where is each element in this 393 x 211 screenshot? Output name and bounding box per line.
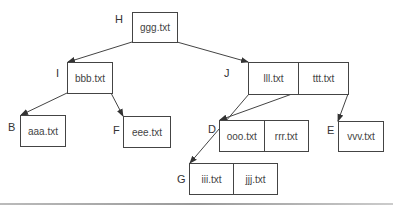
node-d-key-2: rrr.txt	[264, 121, 309, 151]
edge-h-j	[177, 42, 248, 62]
edge-j-e	[338, 94, 348, 121]
node-d: ooo.txt rrr.txt	[219, 120, 309, 152]
node-label-e: E	[327, 124, 334, 136]
node-e-key-1: vvv.txt	[339, 122, 383, 151]
node-label-f: F	[113, 124, 120, 136]
node-d-key-1: ooo.txt	[220, 121, 264, 151]
edge-j-d	[220, 94, 292, 120]
node-e: vvv.txt	[338, 121, 384, 152]
node-h-key-1: ggg.txt	[133, 13, 177, 42]
node-g-key-1: iii.txt	[190, 164, 233, 194]
node-label-j: J	[224, 67, 230, 79]
node-b: aaa.txt	[20, 115, 66, 147]
node-h: ggg.txt	[132, 12, 178, 43]
node-j: lll.txt ttt.txt	[248, 62, 349, 95]
edge-i-f	[111, 93, 123, 116]
node-f-key-1: eee.txt	[124, 117, 170, 147]
node-b-key-1: aaa.txt	[21, 116, 65, 146]
edge-i-b	[21, 93, 67, 115]
edge-h-i	[68, 42, 132, 62]
node-g: iii.txt jjj.txt	[189, 163, 278, 195]
bottom-divider	[0, 203, 393, 205]
node-label-h: H	[115, 13, 123, 25]
node-j-key-2: ttt.txt	[298, 63, 348, 94]
node-g-key-2: jjj.txt	[233, 164, 277, 194]
node-label-g: G	[177, 173, 186, 185]
node-label-d: D	[208, 123, 216, 135]
node-i: bbb.txt	[67, 62, 113, 94]
node-label-b: B	[8, 121, 15, 133]
node-label-i: I	[56, 67, 59, 79]
node-f: eee.txt	[123, 116, 171, 148]
node-i-key-1: bbb.txt	[68, 63, 112, 93]
node-j-key-1: lll.txt	[249, 63, 298, 94]
